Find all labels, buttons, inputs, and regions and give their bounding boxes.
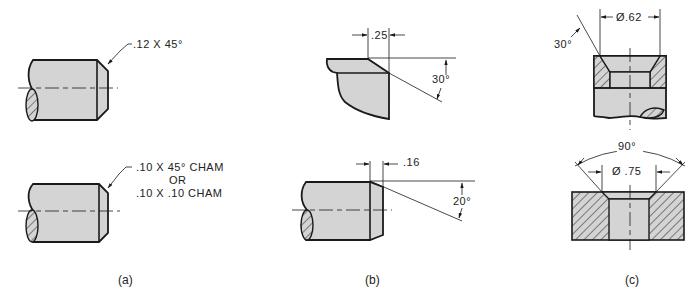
panel-a-top-shaft [18, 44, 132, 121]
panel-c-top-angle: 30° [554, 38, 572, 50]
panel-b-top-angle: 30° [432, 73, 450, 85]
panel-c-bottom-angle: 90° [618, 140, 636, 152]
panel-a-caption: (a) [118, 273, 133, 287]
panel-a-bottom-note-line3: .10 X .10 CHAM [136, 187, 222, 199]
panel-c-bottom-diameter: Ø .75 [612, 165, 641, 177]
chamfer-diagram: .12 X 45° .10 X 45° CHAM OR .10 X .10 CH… [0, 0, 699, 304]
panel-c-top-diameter: Ø.62 [616, 11, 642, 23]
panel-b-bottom-shaft [292, 161, 475, 240]
panel-a-bottom-note-line1: .10 X 45° CHAM [136, 161, 224, 173]
panel-a-top-note: .12 X 45° [133, 38, 183, 50]
panel-a-bottom-shaft [18, 167, 132, 242]
panel-c-top-section [571, 9, 666, 130]
panel-b-bottom-angle: 20° [453, 195, 471, 207]
panel-a-bottom-note-line2: OR [169, 174, 187, 186]
panel-b-top-dim: .25 [371, 29, 388, 41]
panel-c-caption: (c) [625, 273, 639, 287]
panel-b-bottom-dim: .16 [403, 156, 420, 168]
panel-b-caption: (b) [365, 273, 380, 287]
